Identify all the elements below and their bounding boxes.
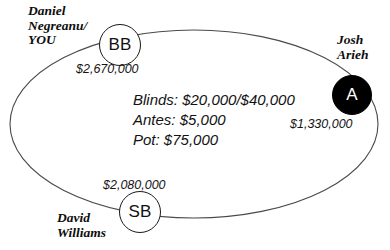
pot-line: Pot: $75,000 [133,130,295,150]
blinds-line: Blinds: $20,000/$40,000 [133,90,295,110]
seat-label-sb: SB [128,202,151,222]
poker-table-diagram: BB A SB Daniel Negreanu/ YOU Josh Arieh … [0,0,390,250]
chip-stack-sb: $2,080,000 [103,178,166,192]
seat-label-bb: BB [108,35,131,55]
antes-line: Antes: $5,000 [133,110,295,130]
player-name-sb: David Williams [57,211,106,240]
chip-stack-bb: $2,670,000 [76,62,139,76]
seat-marker-sb[interactable]: SB [119,191,161,233]
seat-marker-a[interactable]: A [332,75,372,115]
chip-stack-a: $1,330,000 [290,117,353,131]
pot-info-block: Blinds: $20,000/$40,000 Antes: $5,000 Po… [133,90,295,150]
player-name-bb: Daniel Negreanu/ YOU [28,4,87,48]
seat-label-a: A [346,85,358,105]
player-name-a: Josh Arieh [337,33,369,62]
seat-marker-bb[interactable]: BB [99,24,141,66]
